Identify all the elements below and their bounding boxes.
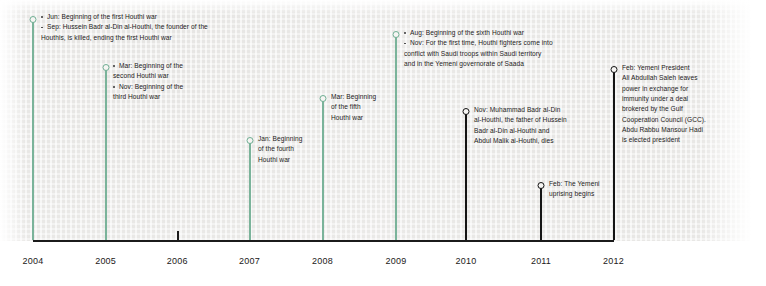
event-stem-2008: [322, 101, 324, 240]
event-stem-2011: [540, 188, 542, 240]
event-line: power in exchange for: [622, 84, 706, 94]
event-text-2005: Mar: Beginning of thesecond Houthi warNo…: [113, 61, 183, 102]
axis-year-label-2006: 2006: [167, 256, 188, 266]
axis-year-label-2004: 2004: [23, 256, 44, 266]
event-line: Mar: Beginning of the: [113, 61, 183, 71]
axis-year-label-2007: 2007: [239, 256, 260, 266]
event-line: Nov: Muhammad Badr al-Din: [474, 105, 567, 115]
event-line: Houthi war: [331, 113, 376, 123]
event-marker-2005[interactable]: [102, 64, 109, 71]
event-text-2008: Mar: Beginningof the fifthHouthi war: [331, 92, 376, 123]
event-line: Badr al-Din al-Houthi and: [474, 126, 567, 136]
event-stem-2005: [105, 70, 107, 240]
event-marker-2012[interactable]: [610, 66, 617, 73]
event-text-2007: Jan: Beginningof the fourthHouthi war: [258, 134, 302, 165]
paper-fade-right: [700, 0, 766, 241]
event-stem-2007: [249, 143, 251, 240]
axis-year-label-2009: 2009: [386, 256, 407, 266]
event-text-2009: Aug: Beginning of the sixth Houthi warNo…: [404, 28, 553, 69]
event-line: Feb: The Yemeni: [549, 179, 600, 189]
event-line: Houthis, is killed, ending the first Hou…: [41, 33, 208, 43]
event-line: of the fourth: [258, 144, 302, 154]
event-line: second Houthi war: [113, 71, 183, 81]
event-line: brokered by the Gulf: [622, 104, 706, 114]
event-marker-2011[interactable]: [538, 182, 545, 189]
event-line: uprising begins: [549, 189, 600, 199]
event-text-2011: Feb: The Yemeniuprising begins: [549, 179, 600, 200]
event-stem-2010: [465, 114, 467, 240]
axis-baseline: [33, 240, 614, 242]
event-text-2012: Feb: Yemeni PresidentAli Abdullah Saleh …: [622, 63, 706, 146]
event-line: and in the Yemeni governorate of Saada: [404, 59, 553, 69]
event-line: Abdul Malik ai-Houthi, dies: [474, 136, 567, 146]
axis-year-label-2010: 2010: [456, 256, 477, 266]
event-line: Sep: Hussein Badr al-Din al-Houthi, the …: [41, 22, 208, 32]
event-line: Jan: Beginning: [258, 134, 302, 144]
event-line: Ali Abdullah Saleh leaves: [622, 73, 706, 83]
event-stem-2009: [395, 37, 397, 240]
event-marker-2004[interactable]: [30, 16, 37, 23]
event-line: Houthi war: [258, 155, 302, 165]
event-line: al-Houthi, the father of Hussein: [474, 115, 567, 125]
event-text-2004: Jun: Beginning of the first Houthi warSe…: [41, 12, 208, 43]
event-line: Cooperation Council (GCC).: [622, 115, 706, 125]
event-stem-2004: [32, 22, 34, 240]
event-marker-2010[interactable]: [463, 108, 470, 115]
event-line: conflict with Saudi troops within Saudi …: [404, 49, 553, 59]
event-line: third Houthi war: [113, 92, 183, 102]
event-line: immunity under a deal: [622, 94, 706, 104]
event-line: is elected president: [622, 135, 706, 145]
event-marker-2008[interactable]: [319, 95, 326, 102]
event-marker-2009[interactable]: [393, 31, 400, 38]
paper-fade-left: [0, 0, 26, 241]
event-line: Mar: Beginning: [331, 92, 376, 102]
event-line: Aug: Beginning of the sixth Houthi war: [404, 28, 553, 38]
axis-year-label-2005: 2005: [95, 256, 116, 266]
event-line: Feb: Yemeni President: [622, 63, 706, 73]
event-line: Nov: Beginning of the: [113, 82, 183, 92]
axis-tick-2006: [177, 231, 179, 240]
event-stem-2012: [613, 72, 615, 240]
timeline-figure: Jun: Beginning of the first Houthi warSe…: [0, 0, 766, 286]
event-text-2010: Nov: Muhammad Badr al-Dinal-Houthi, the …: [474, 105, 567, 146]
axis-year-label-2008: 2008: [312, 256, 333, 266]
event-line: Jun: Beginning of the first Houthi war: [41, 12, 208, 22]
event-line: Nov: For the first time, Houthi fighters…: [404, 38, 553, 48]
event-marker-2007[interactable]: [246, 137, 253, 144]
axis-year-label-2012: 2012: [603, 256, 624, 266]
event-line: Abdu Rabbu Mansour Hadi: [622, 125, 706, 135]
axis-year-label-2011: 2011: [531, 256, 551, 266]
event-line: of the fifth: [331, 102, 376, 112]
